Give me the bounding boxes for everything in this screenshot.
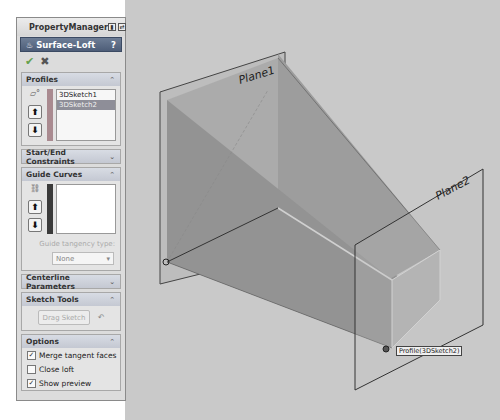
move-down-button[interactable]: ⬇	[28, 218, 42, 232]
guide-color-bar	[47, 184, 53, 234]
checkbox-label: Close loft	[39, 365, 74, 374]
sketch-tools-title: Sketch Tools	[26, 295, 79, 304]
property-manager-panel: PropertyManager ▮ ⇄ ♨Surface-Loft ? ✔ ✖ …	[16, 17, 126, 401]
chevron-up-icon[interactable]: ⌃	[109, 171, 115, 179]
help-button[interactable]: ?	[111, 40, 116, 50]
loft-preview-graphic: Plane1 Plane2	[125, 0, 500, 420]
pin-icon[interactable]: ▮	[108, 23, 116, 31]
feature-title: Surface-Loft	[36, 40, 95, 50]
start-end-group[interactable]: Start/End Constraints ⌄	[21, 149, 121, 164]
checkbox-checked[interactable]: ✓	[27, 351, 36, 360]
checkbox-unchecked[interactable]	[27, 365, 36, 374]
profiles-group: Profiles ⌃ ▱° ⬆ ⬇ 3DSketch1 3DSketch2	[21, 72, 121, 146]
profiles-color-bar	[47, 89, 53, 141]
profiles-listbox[interactable]: 3DSketch1 3DSketch2	[56, 89, 116, 141]
guide-curves-listbox[interactable]	[56, 184, 116, 234]
options-group: Options ⌃ ✓ Merge tangent faces Close lo…	[21, 334, 121, 391]
start-end-title: Start/End Constraints	[26, 148, 109, 166]
sketch-tools-header[interactable]: Sketch Tools ⌃	[22, 293, 120, 306]
pm-title: PropertyManager	[29, 23, 108, 32]
list-item[interactable]: 3DSketch2	[57, 100, 115, 110]
move-down-button[interactable]: ⬇	[28, 123, 42, 137]
chevron-up-icon[interactable]: ⌃	[109, 76, 115, 84]
chevron-down-icon: ▾	[106, 255, 110, 263]
merge-tangent-faces-checkbox[interactable]: ✓ Merge tangent faces	[22, 348, 120, 362]
ok-button[interactable]: ✔	[25, 55, 34, 68]
show-preview-checkbox[interactable]: ✓ Show preview	[22, 376, 120, 390]
chevron-up-icon[interactable]: ⌃	[109, 296, 115, 304]
surface-loft-icon: ♨	[26, 41, 33, 50]
guide-curve-icon: ⛓	[28, 184, 42, 196]
sketch-tools-group: Sketch Tools ⌃ Drag Sketch ↶	[21, 292, 121, 331]
checkbox-label: Merge tangent faces	[39, 351, 116, 360]
profile2-handle	[383, 346, 389, 352]
list-item[interactable]: 3DSketch1	[57, 90, 115, 100]
chevron-down-icon[interactable]: ⌄	[109, 153, 115, 161]
graphics-viewport[interactable]: Plane1 Plane2	[125, 0, 500, 420]
checkbox-label: Show preview	[39, 379, 91, 388]
collapse-icon[interactable]: ⇄	[118, 23, 126, 31]
centerline-title: Centerline Parameters	[26, 273, 109, 291]
guide-curves-title: Guide Curves	[26, 170, 82, 179]
options-header[interactable]: Options ⌃	[22, 335, 120, 348]
centerline-group[interactable]: Centerline Parameters ⌄	[21, 274, 121, 289]
cancel-button[interactable]: ✖	[40, 55, 49, 68]
tangency-label: Guide tangency type:	[22, 238, 120, 250]
profile-tooltip: Profile(3DSketch2)	[396, 346, 462, 356]
profile-select-icon: ▱°	[28, 89, 42, 101]
feature-title-bar: ♨Surface-Loft ?	[20, 37, 122, 52]
move-up-button[interactable]: ⬆	[28, 105, 42, 119]
profiles-title: Profiles	[26, 75, 58, 84]
profiles-group-header[interactable]: Profiles ⌃	[22, 73, 120, 86]
drag-sketch-button[interactable]: Drag Sketch	[38, 310, 90, 325]
checkbox-checked[interactable]: ✓	[27, 379, 36, 388]
chevron-down-icon[interactable]: ⌄	[109, 278, 115, 286]
tangency-select[interactable]: None ▾	[52, 252, 114, 265]
undo-icon[interactable]: ↶	[98, 313, 105, 322]
tangency-value: None	[56, 255, 74, 263]
guide-curves-header[interactable]: Guide Curves ⌃	[22, 168, 120, 181]
chevron-up-icon[interactable]: ⌃	[109, 338, 115, 346]
close-loft-checkbox[interactable]: Close loft	[22, 362, 120, 376]
move-up-button[interactable]: ⬆	[28, 200, 42, 214]
options-title: Options	[26, 337, 59, 346]
pm-header: PropertyManager ▮ ⇄	[17, 18, 125, 36]
guide-curves-group: Guide Curves ⌃ ⛓ ⬆ ⬇ Guide tangency type…	[21, 167, 121, 271]
